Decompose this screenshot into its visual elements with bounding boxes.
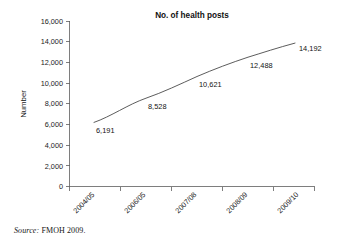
x-tick-label: 2004/05	[71, 190, 96, 215]
source-note: Source: FMOH 2009.	[14, 226, 86, 235]
y-axis-ticks: 0 2,000 4,000 6,000 8,000 10,000 12,000 …	[41, 17, 70, 192]
y-tick-label: 10,000	[41, 79, 63, 88]
data-label: 12,488	[250, 61, 273, 70]
y-axis-title: Number	[19, 90, 28, 118]
chart-title: No. of health posts	[155, 11, 229, 20]
x-axis-ticks	[70, 187, 315, 191]
y-tick-label: 12,000	[41, 58, 63, 67]
x-tick-label: 2009/10	[275, 190, 300, 215]
y-tick-label: 14,000	[41, 37, 63, 46]
y-tick-label: 16,000	[41, 17, 63, 26]
data-labels: 6,191 8,528 10,621 12,488 14,192	[96, 44, 322, 135]
data-label: 14,192	[299, 44, 322, 53]
data-label: 10,621	[199, 80, 222, 89]
source-text: FMOH 2009.	[41, 226, 85, 235]
x-tick-label: 2007/08	[173, 190, 198, 215]
y-tick-label: 0	[59, 182, 63, 191]
data-label: 8,528	[148, 102, 167, 111]
y-tick-label: 6,000	[45, 120, 63, 129]
x-tick-label: 2006/05	[122, 190, 147, 215]
figure-container: No. of health posts 0 2,000 4,000 6,000 …	[0, 0, 343, 249]
line-chart: No. of health posts 0 2,000 4,000 6,000 …	[0, 0, 343, 216]
data-label: 6,191	[96, 126, 115, 135]
y-tick-label: 2,000	[45, 162, 63, 171]
y-tick-label: 4,000	[45, 141, 63, 150]
x-tick-label: 2008/09	[224, 190, 249, 215]
series-line	[94, 43, 295, 122]
source-label: Source:	[14, 226, 39, 235]
x-axis-labels: 2004/05 2006/05 2007/08 2008/09 2009/10	[71, 190, 300, 215]
y-tick-label: 8,000	[45, 99, 63, 108]
